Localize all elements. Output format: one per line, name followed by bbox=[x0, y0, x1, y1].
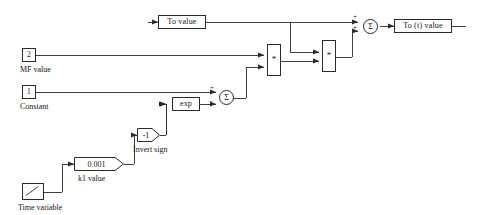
sum-block-2-plus-sign-top: + bbox=[353, 14, 357, 21]
gain-invert-sign-value: -1 bbox=[143, 131, 155, 140]
gain-k1-value-caption: k1 value bbox=[78, 175, 105, 183]
inport-constant-caption: Constant bbox=[20, 103, 48, 111]
gain-k1-value[interactable]: 0.001 bbox=[74, 157, 124, 171]
block-diagram-canvas: To value To (t) value 2 MF value 1 Const… bbox=[0, 0, 480, 215]
inport-constant-number: 1 bbox=[27, 88, 31, 96]
product-block-2[interactable]: * bbox=[322, 40, 336, 72]
product-block-1-label: * bbox=[272, 55, 277, 64]
product-block-2-label: * bbox=[327, 51, 332, 60]
sum-block-1-plus-sign: + bbox=[210, 85, 214, 92]
gain-invert-sign[interactable]: -1 bbox=[137, 128, 160, 142]
sum-block-1-minus-sign: − bbox=[209, 99, 213, 106]
time-variable-block[interactable] bbox=[22, 183, 44, 200]
sum-block-1-label: Σ bbox=[224, 93, 229, 102]
sum-block-2[interactable]: Σ bbox=[363, 19, 378, 34]
to-t-value-block[interactable]: To (t) value bbox=[394, 19, 452, 33]
inport-constant[interactable]: 1 bbox=[22, 85, 36, 99]
ramp-icon bbox=[23, 184, 43, 199]
to-t-value-label: To (t) value bbox=[403, 22, 443, 30]
inport-mf-value[interactable]: 2 bbox=[22, 48, 36, 62]
product-block-1[interactable]: * bbox=[267, 44, 281, 76]
sum-block-1[interactable]: Σ bbox=[219, 90, 234, 105]
gain-k1-value-value: 0.001 bbox=[88, 160, 111, 169]
exp-block-label: exp bbox=[180, 100, 192, 108]
inport-mf-value-number: 2 bbox=[27, 51, 31, 59]
sum-block-2-label: Σ bbox=[368, 22, 373, 31]
exp-block[interactable]: exp bbox=[172, 97, 200, 111]
inport-mf-value-caption: MF value bbox=[20, 66, 51, 74]
to-value-block[interactable]: To value bbox=[158, 15, 206, 29]
to-value-label: To value bbox=[167, 18, 196, 26]
gain-invert-sign-caption: Invert sign bbox=[133, 146, 167, 154]
time-variable-caption: Time variable bbox=[18, 204, 62, 212]
sum-block-2-plus-sign-bottom: + bbox=[353, 25, 357, 32]
